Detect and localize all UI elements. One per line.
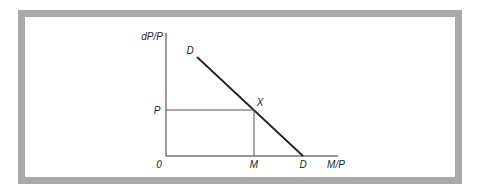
- curve-label-top: D: [186, 45, 193, 56]
- y-axis-label: dP/P: [141, 31, 163, 42]
- demand-diagram: dP/P D X P 0 M D M/P: [0, 0, 480, 194]
- point-label-x: X: [256, 97, 264, 108]
- curve-label-bottom: D: [299, 159, 306, 170]
- demand-curve: [197, 57, 303, 156]
- origin-label: 0: [156, 159, 162, 170]
- x-axis-label: M/P: [327, 159, 345, 170]
- y-point-label: P: [154, 105, 161, 116]
- x-point-label: M: [250, 159, 259, 170]
